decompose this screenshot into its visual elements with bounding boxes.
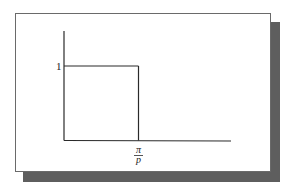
y-tick-label: 1 (56, 60, 62, 72)
step-function-plot: 1 π p (0, 0, 293, 192)
x-tick-denominator: p (135, 154, 141, 165)
x-axis (64, 141, 231, 142)
